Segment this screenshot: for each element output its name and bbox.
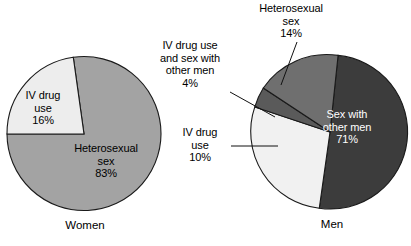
- women-pie-group: [7, 57, 161, 211]
- men-label-iv-drug-use-and-sex-with-other-men: IV drug use and sex with other men 4%: [148, 39, 232, 89]
- women-label-iv-drug-use: IV drug use 16%: [12, 89, 74, 127]
- men-caption: Men: [272, 218, 392, 230]
- men-label-heterosexual-sex: Heterosexual sex 14%: [236, 2, 346, 40]
- women-label-heterosexual-sex: Heterosexual sex 83%: [56, 142, 156, 180]
- men-label-iv-drug-use: IV drug use 10%: [170, 126, 230, 164]
- pie-chart-figure: Heterosexual sex 83% IV drug use 16% Wom…: [0, 0, 411, 246]
- women-caption: Women: [25, 219, 145, 231]
- men-label-sex-with-other-men: Sex with other men 71%: [305, 108, 389, 146]
